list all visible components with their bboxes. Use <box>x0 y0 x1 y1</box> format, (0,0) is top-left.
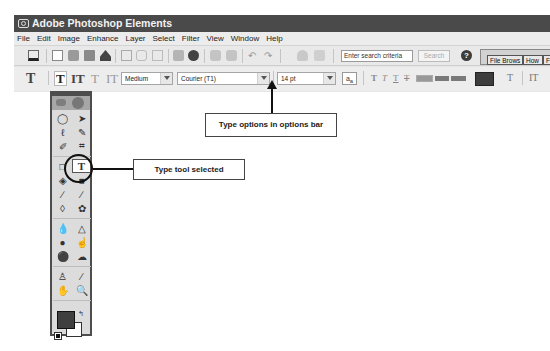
dodge-tool-icon[interactable]: ⚫ <box>53 249 72 263</box>
divider <box>242 49 243 63</box>
window-title: Adobe Photoshop Elements <box>32 17 172 29</box>
font-size-value: 14 pt <box>281 75 295 82</box>
eraser-tool-icon[interactable]: ◊ <box>53 201 72 215</box>
save-icon[interactable] <box>121 50 132 61</box>
tab-more[interactable]: F <box>543 55 550 65</box>
menu-layer[interactable]: Layer <box>126 34 146 43</box>
divider <box>53 263 91 267</box>
divider <box>363 71 364 85</box>
faux-bold-icon[interactable]: T <box>371 73 377 83</box>
default-colors-icon[interactable] <box>55 333 61 339</box>
lasso-tool-icon[interactable]: ℓ <box>53 125 72 139</box>
step-backward-icon[interactable] <box>210 50 221 61</box>
menu-help[interactable]: Help <box>266 34 282 43</box>
font-family-value: Courier (T1) <box>181 75 216 82</box>
blur-tool-icon[interactable]: 💧 <box>53 221 72 235</box>
tab-file-browser[interactable]: File Brows <box>487 55 523 65</box>
horizontal-type-icon[interactable]: T <box>54 71 67 86</box>
menu-edit[interactable]: Edit <box>37 34 51 43</box>
divider <box>522 71 523 85</box>
divider <box>280 49 281 63</box>
app-logo-icon <box>18 19 29 28</box>
clear-icon[interactable] <box>314 50 325 61</box>
sharpen-tool-icon[interactable]: △ <box>72 221 91 235</box>
eyedropper-tool-icon[interactable]: ∕ <box>72 269 91 283</box>
sponge-tool-icon[interactable]: ● <box>53 235 72 249</box>
menu-file[interactable]: File <box>17 34 30 43</box>
underline-icon[interactable]: T <box>393 73 399 83</box>
menu-view[interactable]: View <box>207 34 224 43</box>
menu-enhance[interactable]: Enhance <box>87 34 119 43</box>
toolbox: ◯ ➤ ℓ ✎ ✐ ⌗ □ T ◈ ■ ∕ ∕ ◊ ✿ 💧 △ ● ☝ ⚫ ☁ … <box>50 91 92 336</box>
import-icon[interactable] <box>100 50 111 61</box>
menu-select[interactable]: Select <box>153 34 175 43</box>
color-swatches: ↰ <box>52 308 90 351</box>
antialias-sub-glyph: a <box>350 78 353 84</box>
photomerge-icon[interactable] <box>188 50 199 61</box>
photo-bin-icon[interactable] <box>28 50 39 61</box>
tool-grid: ◯ ➤ ℓ ✎ ✐ ⌗ □ T ◈ ■ ∕ ∕ ◊ ✿ 💧 △ ● ☝ ⚫ ☁ … <box>52 110 90 304</box>
save-web-icon[interactable] <box>136 50 147 61</box>
text-orientation-icon[interactable]: IT <box>529 72 539 85</box>
search-button[interactable]: Search <box>418 50 450 62</box>
help-icon[interactable]: ? <box>461 50 472 61</box>
divider <box>53 215 91 219</box>
warp-text-icon[interactable]: T <box>507 72 517 85</box>
smudge-tool-icon[interactable]: ☝ <box>72 235 91 249</box>
search-input[interactable]: Enter search criteria <box>341 50 413 62</box>
magic-wand-tool-icon[interactable]: ✎ <box>72 125 91 139</box>
crop-tool-icon[interactable]: ⌗ <box>72 139 91 153</box>
divider <box>46 49 47 63</box>
lock-icon[interactable] <box>297 50 308 61</box>
align-right-button[interactable] <box>451 76 466 81</box>
tab-how-to[interactable]: How <box>523 55 543 65</box>
menu-filter[interactable]: Filter <box>182 34 200 43</box>
red-eye-tool-icon[interactable]: ✿ <box>72 201 91 215</box>
step-forward-icon[interactable] <box>226 50 237 61</box>
clipboard-icon[interactable] <box>152 50 163 61</box>
menu-image[interactable]: Image <box>58 34 80 43</box>
options-bar-callout: Type options in options bar <box>205 113 337 137</box>
color-replace-tool-icon[interactable]: ☁ <box>72 249 91 263</box>
callout-line <box>93 168 133 170</box>
menu-window[interactable]: Window <box>231 34 259 43</box>
photo-bin-toggle-icon[interactable] <box>56 99 66 106</box>
open-icon[interactable] <box>68 50 79 61</box>
hand-tool-icon[interactable]: ✋ <box>53 283 72 297</box>
foreground-color-swatch[interactable] <box>57 311 75 329</box>
new-icon[interactable] <box>52 50 63 61</box>
tool-preset-icon[interactable]: T <box>26 72 35 86</box>
strikethrough-icon[interactable]: T <box>404 73 410 83</box>
divider <box>333 49 334 63</box>
vertical-type-icon[interactable]: IT <box>71 72 85 85</box>
redo-icon[interactable]: ↷ <box>264 50 275 61</box>
marquee-tool-icon[interactable]: ◯ <box>53 111 72 125</box>
clone-stamp-tool-icon[interactable]: ♙ <box>53 269 72 283</box>
pencil-tool-icon[interactable]: ∕ <box>72 187 91 201</box>
print-icon[interactable] <box>84 50 95 61</box>
font-family-select[interactable]: Courier (T1) <box>177 72 270 85</box>
move-tool-icon[interactable]: ➤ <box>72 111 91 125</box>
font-size-select[interactable]: 14 pt <box>277 72 336 85</box>
undo-icon[interactable]: ↶ <box>248 50 259 61</box>
callout-arrow-shaft <box>271 87 273 113</box>
chevron-down-icon <box>323 73 335 84</box>
align-left-button[interactable] <box>416 75 433 82</box>
align-center-button[interactable] <box>435 76 450 81</box>
faux-italic-icon[interactable]: T <box>382 73 387 83</box>
vertical-type-mask-icon[interactable]: IT <box>106 72 118 85</box>
antialias-button[interactable]: aa <box>342 72 357 85</box>
type-tool-callout: Type tool selected <box>133 159 245 180</box>
quick-fix-icon[interactable] <box>173 50 184 61</box>
zoom-tool-icon[interactable]: 🔍 <box>72 283 91 297</box>
font-style-select[interactable]: Medium <box>121 72 173 85</box>
swap-colors-icon[interactable]: ↰ <box>78 310 84 318</box>
divider <box>168 49 169 63</box>
brush-tool-icon[interactable]: ∕ <box>53 187 72 201</box>
divider <box>53 297 91 301</box>
selection-brush-tool-icon[interactable]: ✐ <box>53 139 72 153</box>
horizontal-type-mask-icon[interactable]: T <box>91 72 99 85</box>
text-color-swatch[interactable] <box>475 72 494 86</box>
divider <box>204 49 205 63</box>
divider <box>48 71 49 85</box>
